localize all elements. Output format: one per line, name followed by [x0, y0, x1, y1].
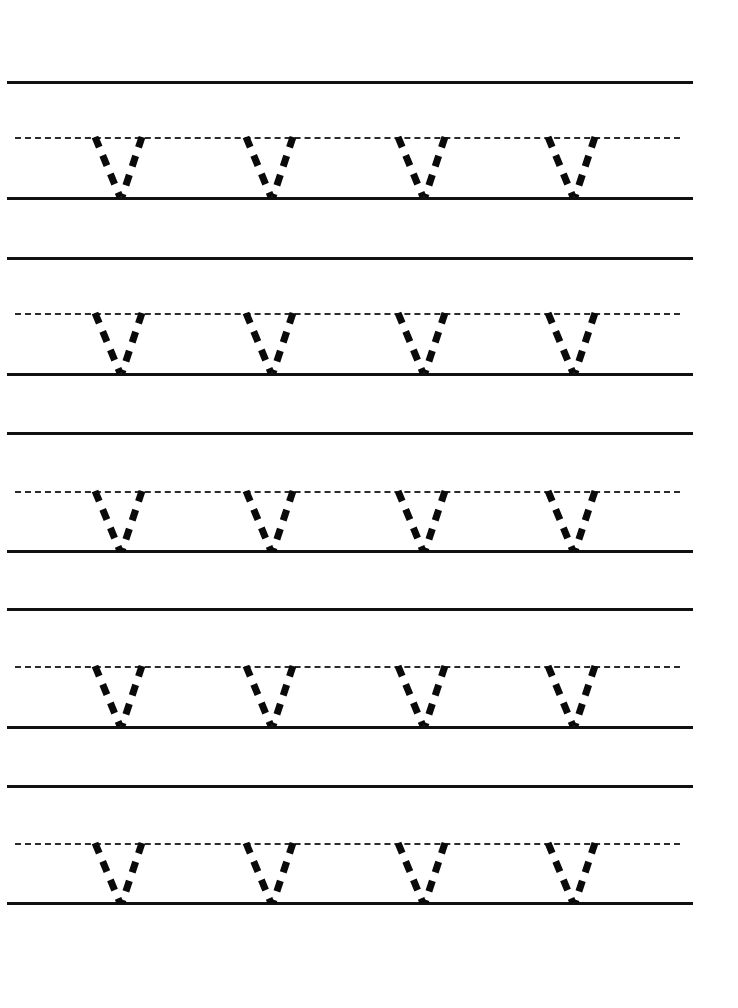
trace-stroke-left-diagonal-down-right	[95, 313, 120, 373]
trace-stroke-left-diagonal-down-right	[548, 843, 573, 903]
trace-stroke-right-diagonal-down-left	[273, 666, 293, 726]
guide-line-top	[7, 432, 693, 435]
trace-stroke-left-diagonal-down-right	[95, 666, 120, 726]
trace-stroke-right-diagonal-down-left	[273, 843, 293, 903]
letter-glyph-v	[548, 491, 595, 551]
trace-stroke-right-diagonal-down-left	[122, 491, 142, 551]
trace-stroke-right-diagonal-down-left	[575, 491, 595, 551]
tracing-letter-v[interactable]	[548, 491, 595, 551]
tracing-letter-v[interactable]	[398, 843, 445, 903]
letter-glyph-v	[246, 313, 293, 373]
tracing-letter-v[interactable]	[246, 137, 293, 197]
tracing-letter-v[interactable]	[95, 843, 142, 903]
letter-glyph-v	[246, 491, 293, 551]
trace-stroke-right-diagonal-down-left	[122, 137, 142, 197]
letter-glyph-v	[95, 137, 142, 197]
tracing-letter-v[interactable]	[548, 137, 595, 197]
tracing-letter-v[interactable]	[398, 491, 445, 551]
letter-glyph-v	[95, 491, 142, 551]
trace-stroke-left-diagonal-down-right	[398, 843, 423, 903]
letter-glyph-v	[548, 137, 595, 197]
letter-glyph-v	[95, 313, 142, 373]
letter-glyph-v	[95, 843, 142, 903]
trace-stroke-left-diagonal-down-right	[398, 491, 423, 551]
guide-line-top	[7, 608, 693, 611]
letter-glyph-v	[246, 843, 293, 903]
trace-stroke-left-diagonal-down-right	[246, 137, 271, 197]
trace-stroke-left-diagonal-down-right	[95, 491, 120, 551]
letter-glyph-v	[398, 666, 445, 726]
trace-stroke-left-diagonal-down-right	[246, 843, 271, 903]
trace-stroke-left-diagonal-down-right	[548, 666, 573, 726]
letter-glyph-v	[246, 137, 293, 197]
trace-stroke-right-diagonal-down-left	[273, 313, 293, 373]
tracing-letter-v[interactable]	[548, 313, 595, 373]
practice-row	[0, 608, 738, 729]
trace-stroke-right-diagonal-down-left	[122, 843, 142, 903]
trace-stroke-right-diagonal-down-left	[122, 313, 142, 373]
guide-line-baseline	[7, 197, 693, 200]
trace-stroke-left-diagonal-down-right	[95, 843, 120, 903]
trace-stroke-left-diagonal-down-right	[398, 313, 423, 373]
trace-stroke-right-diagonal-down-left	[273, 137, 293, 197]
trace-stroke-right-diagonal-down-left	[575, 137, 595, 197]
trace-stroke-left-diagonal-down-right	[548, 313, 573, 373]
letter-glyph-v	[398, 491, 445, 551]
tracing-worksheet-page	[0, 0, 738, 1008]
guide-line-top	[7, 257, 693, 260]
tracing-letter-v[interactable]	[548, 666, 595, 726]
trace-stroke-left-diagonal-down-right	[246, 313, 271, 373]
trace-stroke-left-diagonal-down-right	[95, 137, 120, 197]
tracing-letter-v[interactable]	[398, 666, 445, 726]
tracing-letter-v[interactable]	[246, 313, 293, 373]
letter-glyph-v	[398, 843, 445, 903]
trace-stroke-right-diagonal-down-left	[122, 666, 142, 726]
trace-stroke-left-diagonal-down-right	[548, 137, 573, 197]
guide-line-baseline	[7, 726, 693, 729]
trace-stroke-right-diagonal-down-left	[575, 313, 595, 373]
tracing-letter-v[interactable]	[246, 666, 293, 726]
trace-stroke-right-diagonal-down-left	[425, 843, 445, 903]
trace-stroke-right-diagonal-down-left	[425, 313, 445, 373]
guide-line-top	[7, 81, 693, 84]
trace-stroke-left-diagonal-down-right	[246, 491, 271, 551]
tracing-letter-v[interactable]	[95, 137, 142, 197]
letter-glyph-v	[398, 137, 445, 197]
trace-stroke-left-diagonal-down-right	[246, 666, 271, 726]
letter-glyph-v	[95, 666, 142, 726]
tracing-letter-v[interactable]	[548, 843, 595, 903]
letter-glyph-v	[548, 666, 595, 726]
guide-line-baseline	[7, 373, 693, 376]
guide-line-top	[7, 785, 693, 788]
trace-stroke-left-diagonal-down-right	[398, 666, 423, 726]
trace-stroke-left-diagonal-down-right	[398, 137, 423, 197]
trace-stroke-right-diagonal-down-left	[425, 137, 445, 197]
trace-stroke-right-diagonal-down-left	[575, 666, 595, 726]
tracing-letter-v[interactable]	[246, 843, 293, 903]
letter-glyph-v	[548, 843, 595, 903]
trace-stroke-left-diagonal-down-right	[548, 491, 573, 551]
tracing-letter-v[interactable]	[398, 313, 445, 373]
letter-glyph-v	[398, 313, 445, 373]
letter-glyph-v	[548, 313, 595, 373]
tracing-letter-v[interactable]	[95, 666, 142, 726]
letter-glyph-v	[246, 666, 293, 726]
tracing-letter-v[interactable]	[398, 137, 445, 197]
practice-row	[0, 432, 738, 553]
tracing-letter-v[interactable]	[95, 313, 142, 373]
practice-row	[0, 81, 738, 200]
practice-row	[0, 257, 738, 376]
tracing-letter-v[interactable]	[246, 491, 293, 551]
trace-stroke-right-diagonal-down-left	[273, 491, 293, 551]
tracing-letter-v[interactable]	[95, 491, 142, 551]
trace-stroke-right-diagonal-down-left	[425, 491, 445, 551]
trace-stroke-right-diagonal-down-left	[575, 843, 595, 903]
trace-stroke-right-diagonal-down-left	[425, 666, 445, 726]
practice-row	[0, 785, 738, 905]
